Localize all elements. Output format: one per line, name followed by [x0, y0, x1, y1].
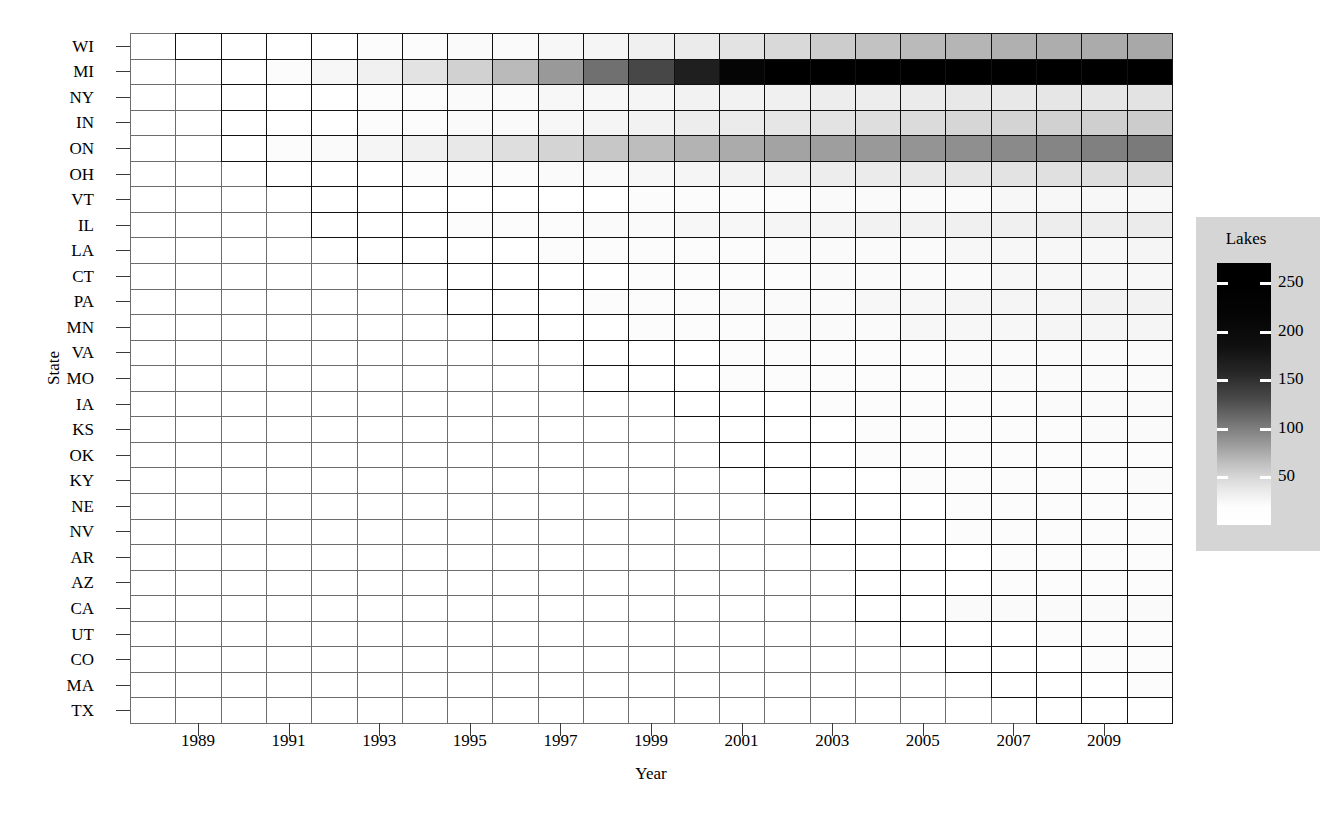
legend-tick-mark [1217, 282, 1228, 285]
colorbar-gradient [1217, 263, 1271, 525]
heatmap-figure: State WIMINYINONOHVTILLACTPAMNVAMOIAKSOK… [0, 0, 1331, 813]
legend-tick-mark [1260, 331, 1271, 334]
x-tick-mark [198, 723, 199, 736]
x-tick-mark [1013, 723, 1014, 736]
legend-tick-label-50: 50 [1278, 466, 1295, 486]
legend-tick-mark [1217, 476, 1228, 479]
x-tick-mark [470, 723, 471, 736]
x-tick-mark [379, 723, 380, 736]
legend-tick-label-150: 150 [1278, 369, 1304, 389]
x-tick-mark [1104, 723, 1105, 736]
legend-tick-mark [1217, 428, 1228, 431]
legend-tick-mark [1260, 379, 1271, 382]
x-tick-mark [742, 723, 743, 736]
x-tick-mark [560, 723, 561, 736]
legend-tick-label-100: 100 [1278, 418, 1304, 438]
x-tick-mark [923, 723, 924, 736]
legend-tick-mark [1260, 282, 1271, 285]
legend-tick-label-250: 250 [1278, 272, 1304, 292]
legend-tick-mark [1217, 331, 1228, 334]
x-tick-mark [289, 723, 290, 736]
x-tick-mark [651, 723, 652, 736]
x-axis-title: Year [130, 764, 1172, 784]
colorbar-legend: Lakes 25020015010050 [1196, 217, 1320, 551]
x-axis-tick-layer: 1989199119931995199719992001200320052007… [0, 0, 1331, 813]
legend-tick-mark [1217, 379, 1228, 382]
legend-tick-label-200: 200 [1278, 321, 1304, 341]
x-tick-mark [832, 723, 833, 736]
legend-tick-mark [1260, 428, 1271, 431]
legend-tick-mark [1260, 476, 1271, 479]
legend-title: Lakes [1196, 229, 1296, 249]
